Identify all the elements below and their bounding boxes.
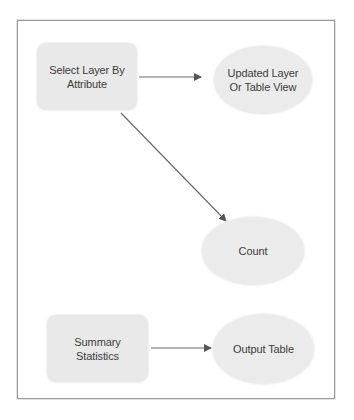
node-label-line: Select Layer By [49,64,125,76]
node-label-line: Statistics [76,350,119,362]
node-label: Output Table [233,342,294,356]
edge-select-to-count [121,113,226,221]
node-label: Count [239,244,268,258]
node-summary-statistics[interactable]: Summary Statistics [47,315,148,382]
node-label: Updated Layer Or Table View [228,66,299,94]
node-count[interactable]: Count [202,217,304,285]
node-label-line: Or Table View [230,81,297,93]
node-label: Summary Statistics [74,335,120,363]
node-label: Select Layer By Attribute [49,63,125,91]
node-label-line: Updated Layer [228,67,299,79]
node-updated-layer-or-table-view[interactable]: Updated Layer Or Table View [214,46,312,114]
node-select-layer-by-attribute[interactable]: Select Layer By Attribute [37,43,137,110]
node-label-line: Summary [74,336,120,348]
node-label-line: Attribute [67,78,107,90]
node-output-table[interactable]: Output Table [213,314,314,384]
